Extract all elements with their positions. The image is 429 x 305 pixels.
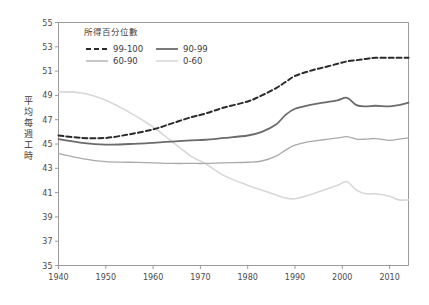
x-tick-label: 1990 <box>285 273 305 282</box>
x-tick-label: 1940 <box>48 273 68 282</box>
legend-label-0-60: 0-60 <box>183 56 202 66</box>
y-tick-label: 53 <box>42 43 52 52</box>
data-series-group <box>59 58 409 201</box>
y-tick-label: 49 <box>42 91 52 100</box>
legend-label-99-100: 99-100 <box>113 44 143 54</box>
x-tick-label: 1980 <box>238 273 258 282</box>
chart-legend: 所得百分位數99-10090-9960-900-60 <box>84 27 208 66</box>
y-tick-label: 43 <box>42 164 52 173</box>
x-tick-label: 1950 <box>96 273 116 282</box>
y-tick-label: 51 <box>42 67 52 76</box>
series-line-0-60 <box>59 92 409 200</box>
x-tick-label: 1960 <box>143 273 163 282</box>
y-tick-label: 47 <box>42 116 52 125</box>
y-tick-label: 41 <box>42 189 52 198</box>
legend-title: 所得百分位數 <box>84 27 138 37</box>
x-axis-ticks: 19401950196019701980199020002010 <box>48 266 399 282</box>
y-tick-label: 55 <box>42 19 52 28</box>
line-chart: 3537394143454749515355 19401950196019701… <box>0 0 429 305</box>
x-tick-label: 2010 <box>379 273 399 282</box>
chart-figure: 平均每週工時 3537394143454749515355 1940195019… <box>0 0 429 305</box>
x-tick-label: 2000 <box>332 273 352 282</box>
x-tick-label: 1970 <box>190 273 210 282</box>
legend-label-90-99: 90-99 <box>183 44 208 54</box>
y-tick-label: 45 <box>42 140 52 149</box>
series-line-60-90 <box>59 137 409 164</box>
legend-label-60-90: 60-90 <box>113 56 138 66</box>
y-axis-ticks: 3537394143454749515355 <box>42 19 58 271</box>
y-tick-label: 35 <box>42 262 52 271</box>
y-tick-label: 37 <box>42 237 52 246</box>
series-line-99-100 <box>59 58 409 139</box>
y-tick-label: 39 <box>42 213 52 222</box>
